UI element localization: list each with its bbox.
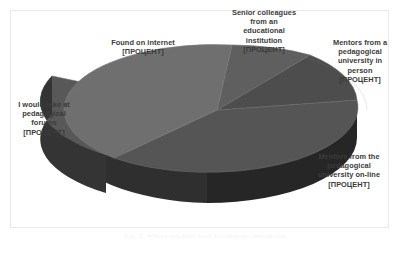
label-line: from an (218, 17, 310, 26)
label-line: Mentors from a (316, 38, 404, 47)
label-line: pedagogical (296, 161, 402, 170)
label-line: educational (218, 26, 310, 35)
figure-container: Senior colleagues from an educational in… (0, 0, 410, 256)
label-value: [ПРОЦЕНТ] (88, 47, 198, 56)
slice-label-found-on-internet: Found on internet [ПРОЦЕНТ] (88, 38, 198, 56)
label-line: Found on internet (88, 38, 198, 47)
label-value: [ПРОЦЕНТ] (316, 75, 404, 84)
slice-label-senior-colleagues: Senior colleagues from an educational in… (218, 8, 310, 54)
label-line: forums (2, 118, 86, 127)
label-line: pedagogical (2, 109, 86, 118)
label-line: institution (218, 36, 310, 45)
figure-caption: Fig. 1. Where teachers look for support … (0, 232, 410, 240)
label-line: Senior colleagues (218, 8, 310, 17)
label-value: [ПРОЦЕНТ] (2, 128, 86, 137)
slice-label-pedagogical-forums: I would take at pedagogical forums [ПРОЦ… (2, 100, 86, 137)
label-value: [ПРОЦЕНТ] (218, 45, 310, 54)
label-line: person (316, 66, 404, 75)
label-line: pedagogical (316, 47, 404, 56)
label-line: university on-line (296, 170, 402, 179)
slice-label-mentors-online: Mentors from the pedagogical university … (296, 152, 402, 189)
slice-label-mentors-in-person: Mentors from a pedagogical university in… (316, 38, 404, 84)
label-line: I would take at (2, 100, 86, 109)
label-value: [ПРОЦЕНТ] (296, 180, 402, 189)
label-line: Mentors from the (296, 152, 402, 161)
label-line: university in (316, 56, 404, 65)
